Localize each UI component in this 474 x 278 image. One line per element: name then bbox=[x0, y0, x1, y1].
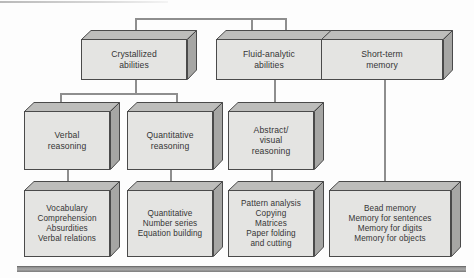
connector-crystallized-bus bbox=[60, 93, 178, 95]
box-front-face: Pattern analysis Copying Matrices Paper … bbox=[228, 190, 314, 257]
box-short-term-memory[interactable]: Short-term memory bbox=[321, 30, 453, 80]
box-quantitative-reasoning[interactable]: Quantitative reasoning bbox=[127, 102, 223, 170]
box-front-face: Bead memory Memory for sentences Memory … bbox=[329, 190, 451, 257]
connector-crystallized-drop bbox=[135, 80, 137, 93]
box-top-face bbox=[216, 30, 332, 39]
box-label: Short-term memory bbox=[358, 49, 406, 70]
box-abstract-visual-reasoning[interactable]: Abstract/ visual reasoning bbox=[228, 102, 324, 170]
box-side-face bbox=[213, 181, 223, 257]
box-side-face bbox=[110, 181, 120, 257]
box-label: Abstract/ visual reasoning bbox=[249, 125, 294, 156]
box-label: Quantitative reasoning bbox=[143, 130, 196, 151]
box-label: Fluid-analytic abilities bbox=[240, 49, 298, 70]
box-side-face bbox=[110, 102, 120, 170]
box-label: Crystallized abilities bbox=[108, 49, 160, 70]
box-top-face bbox=[321, 30, 453, 39]
box-side-face bbox=[443, 30, 453, 80]
box-crystallized-abilities[interactable]: Crystallized abilities bbox=[81, 30, 197, 80]
bottom-rule-bar bbox=[17, 266, 466, 272]
box-top-face bbox=[127, 102, 223, 111]
box-side-face bbox=[451, 181, 461, 257]
box-top-face bbox=[228, 102, 324, 111]
box-label: Bead memory Memory for sentences Memory … bbox=[346, 204, 435, 244]
box-label: Pattern analysis Copying Matrices Paper … bbox=[238, 199, 304, 249]
box-front-face: Vocabulary Comprehension Absurdities Ver… bbox=[24, 190, 110, 257]
box-front-face: Crystallized abilities bbox=[81, 39, 187, 80]
connector-top-bus bbox=[135, 18, 287, 20]
box-verbal-subtests[interactable]: Vocabulary Comprehension Absurdities Ver… bbox=[24, 181, 120, 257]
box-side-face bbox=[213, 102, 223, 170]
box-side-face bbox=[187, 30, 197, 80]
box-top-face bbox=[81, 30, 197, 39]
box-front-face: Fluid-analytic abilities bbox=[216, 39, 322, 80]
box-quantitative-subtests[interactable]: Quantitative Number series Equation buil… bbox=[127, 181, 223, 257]
box-front-face: Abstract/ visual reasoning bbox=[228, 111, 314, 170]
box-front-face: Quantitative Number series Equation buil… bbox=[127, 190, 213, 257]
box-side-face bbox=[314, 102, 324, 170]
box-abstract-visual-subtests[interactable]: Pattern analysis Copying Matrices Paper … bbox=[228, 181, 324, 257]
box-side-face bbox=[314, 181, 324, 257]
box-label: Verbal reasoning bbox=[45, 130, 90, 151]
box-top-face bbox=[24, 102, 120, 111]
box-top-face bbox=[127, 181, 223, 190]
box-label: Vocabulary Comprehension Absurdities Ver… bbox=[34, 204, 99, 244]
box-memory-subtests[interactable]: Bead memory Memory for sentences Memory … bbox=[329, 181, 461, 257]
top-edge-artifact bbox=[0, 1, 168, 3]
box-top-face bbox=[24, 181, 120, 190]
box-top-face bbox=[329, 181, 461, 190]
box-top-face bbox=[228, 181, 324, 190]
box-front-face: Verbal reasoning bbox=[24, 111, 110, 170]
box-fluid-analytic-abilities[interactable]: Fluid-analytic abilities bbox=[216, 30, 332, 80]
box-front-face: Quantitative reasoning bbox=[127, 111, 213, 170]
diagram-canvas: Crystallized abilities Fluid-analytic ab… bbox=[0, 0, 474, 278]
connector-short-term-to-subtests bbox=[384, 80, 386, 184]
box-front-face: Short-term memory bbox=[321, 39, 443, 80]
box-label: Quantitative Number series Equation buil… bbox=[135, 209, 206, 239]
box-verbal-reasoning[interactable]: Verbal reasoning bbox=[24, 102, 120, 170]
